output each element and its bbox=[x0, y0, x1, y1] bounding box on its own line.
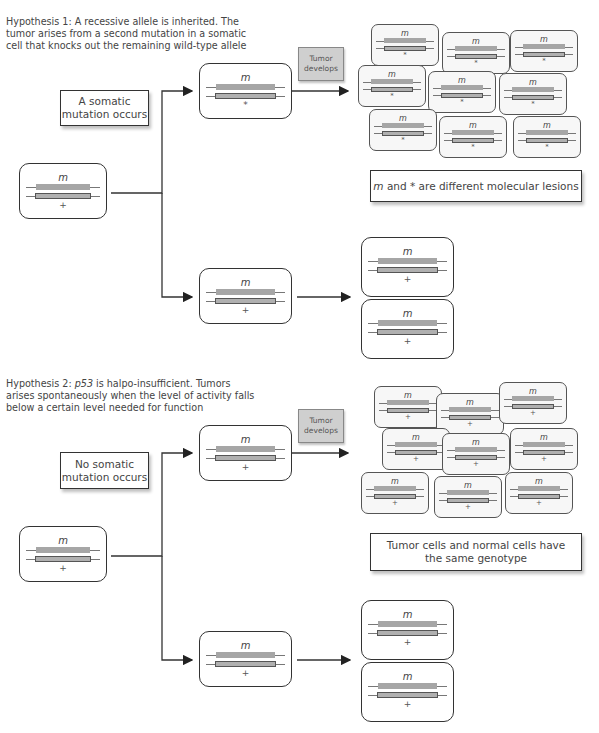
allele-star-label: * bbox=[370, 136, 436, 144]
allele-plus-label: + bbox=[200, 668, 291, 678]
allele-plus-label: + bbox=[200, 305, 291, 315]
allele-m-label: m bbox=[437, 398, 503, 407]
allele-star-label: * bbox=[443, 59, 509, 67]
allele-plus-label: + bbox=[506, 499, 572, 507]
gene-name-p53: p53 bbox=[75, 378, 93, 389]
tumor-cell: m+ bbox=[442, 433, 510, 475]
allele-m-label: m bbox=[362, 308, 453, 319]
allele-plus-label: + bbox=[383, 455, 449, 463]
allele-star-label: * bbox=[359, 92, 425, 100]
allele-star-label: * bbox=[372, 51, 438, 59]
allele-m-label: m bbox=[370, 114, 436, 123]
daughter-cell: m + bbox=[361, 299, 454, 359]
allele-m-label: m bbox=[506, 477, 572, 486]
label-line1: Tumor bbox=[304, 416, 338, 426]
allele-plus-label: + bbox=[500, 409, 566, 417]
hyp2-suffix: is halpo-insufficient. Tumors bbox=[93, 378, 231, 389]
label-line1: A somatic bbox=[62, 95, 147, 108]
label-line2: mutation occurs bbox=[62, 108, 147, 121]
daughter-cell: m + bbox=[361, 600, 454, 660]
tumor-cell: m* bbox=[369, 109, 437, 151]
allele-m-label: m bbox=[200, 434, 291, 445]
conclusion-line2: the same genotype bbox=[387, 552, 566, 565]
normal-cell: m + bbox=[199, 631, 292, 687]
allele-plus-label: + bbox=[437, 420, 503, 428]
normal-cell: m + bbox=[199, 268, 292, 324]
tumor-cell: m* bbox=[513, 116, 581, 158]
allele-m-label: m bbox=[200, 72, 291, 83]
allele-m-label: m bbox=[362, 246, 453, 257]
allele-plus-label: + bbox=[200, 462, 291, 472]
parent-cell-heterozygous: m + bbox=[19, 526, 107, 582]
tumor-cell: m* bbox=[442, 32, 510, 74]
allele-m-label: m bbox=[500, 387, 566, 396]
label-line1: Tumor bbox=[304, 54, 338, 64]
allele-m-label: m bbox=[362, 609, 453, 620]
hyp2-line3: below a certain level needed for functio… bbox=[6, 402, 306, 414]
conclusion-text: and * are different molecular lesions bbox=[384, 180, 579, 192]
allele-m-label: m bbox=[440, 121, 506, 130]
hyp2-line1: Hypothesis 2: p53 is halpo-insufficient.… bbox=[6, 378, 306, 390]
label-line1: No somatic bbox=[62, 458, 147, 471]
allele-plus-label: + bbox=[362, 336, 453, 346]
tumor-cell: m+ bbox=[374, 386, 442, 428]
somatic-mutation-label: A somaticmutation occurs bbox=[60, 90, 149, 126]
allele-star-label: * bbox=[200, 100, 291, 110]
mutated-cell: m * bbox=[199, 63, 292, 119]
allele-m-label: m bbox=[372, 29, 438, 38]
parent-cell-heterozygous: m + bbox=[19, 163, 107, 219]
allele-m-label: m bbox=[20, 535, 106, 546]
hyp1-line3: cell that knocks out the remaining wild-… bbox=[6, 40, 306, 52]
daughter-cell: m + bbox=[361, 237, 454, 297]
hyp1-line2: tumor arises from a second mutation in a… bbox=[6, 28, 306, 40]
allele-m-label: m bbox=[500, 78, 566, 87]
second-hit-allele-bar bbox=[215, 93, 276, 99]
hypothesis-1-description: Hypothesis 1: A recessive allele is inhe… bbox=[6, 16, 306, 52]
no-somatic-mutation-label: No somaticmutation occurs bbox=[60, 452, 149, 489]
tumor-cell: m* bbox=[439, 116, 507, 158]
allele-m-label: m bbox=[359, 70, 425, 79]
allele-plus-label: + bbox=[375, 413, 441, 421]
tumor-cell: m* bbox=[510, 30, 578, 72]
allele-m-italic: m bbox=[373, 180, 383, 192]
allele-plus-label: + bbox=[435, 503, 501, 511]
hyp2-prefix: Hypothesis 2: bbox=[6, 378, 75, 389]
tumor-cell: m+ bbox=[510, 428, 578, 470]
label-line2: develops bbox=[304, 426, 338, 436]
allele-plus-label: + bbox=[362, 637, 453, 647]
allele-m-label: m bbox=[362, 671, 453, 682]
tumor-develops-label: Tumordevelops bbox=[298, 409, 344, 443]
allele-m-label: m bbox=[511, 433, 577, 442]
allele-plus-label: + bbox=[511, 455, 577, 463]
allele-m-label: m bbox=[383, 433, 449, 442]
hyp2-conclusion: Tumor cells and normal cells havethe sam… bbox=[370, 533, 582, 571]
allele-plus-label: + bbox=[443, 460, 509, 468]
allele-m-label: m bbox=[200, 277, 291, 288]
allele-m-label: m bbox=[443, 438, 509, 447]
allele-plus-label: + bbox=[362, 699, 453, 709]
allele-m-label: m bbox=[435, 481, 501, 490]
allele-m-label: m bbox=[375, 391, 441, 400]
conclusion-line1: Tumor cells and normal cells have bbox=[387, 539, 566, 552]
tumor-cell: m+ bbox=[361, 472, 429, 514]
tumor-cell: m+ bbox=[505, 472, 573, 514]
allele-m-label: m bbox=[200, 640, 291, 651]
allele-star-label: * bbox=[429, 98, 495, 106]
allele-m-label: m bbox=[362, 477, 428, 486]
tumor-cell: m* bbox=[358, 65, 426, 107]
label-line2: develops bbox=[304, 64, 338, 74]
allele-star-label: * bbox=[500, 100, 566, 108]
allele-star-label: * bbox=[514, 143, 580, 151]
mutant-allele-bar bbox=[216, 289, 275, 295]
allele-plus-label: + bbox=[20, 200, 106, 210]
wildtype-allele-bar bbox=[215, 298, 276, 304]
allele-m-label: m bbox=[429, 76, 495, 85]
tumor-cell: m+ bbox=[382, 428, 450, 470]
tumor-develops-label: Tumordevelops bbox=[298, 47, 344, 81]
tumor-cell: m+ bbox=[434, 476, 502, 518]
allele-m-label: m bbox=[20, 172, 106, 183]
allele-star-label: * bbox=[511, 57, 577, 65]
allele-m-label: m bbox=[514, 121, 580, 130]
daughter-cell: m + bbox=[361, 662, 454, 722]
upper-cell: m + bbox=[199, 425, 292, 481]
